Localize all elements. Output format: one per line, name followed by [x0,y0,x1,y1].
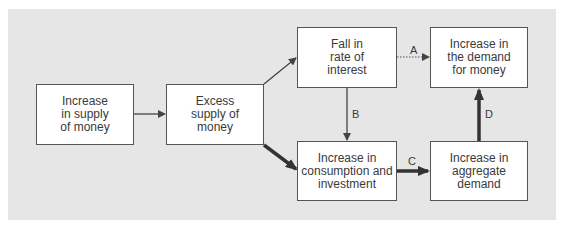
arrow-excess-to-consumption [264,145,296,169]
node-increase-consumption: Increase in consumption and investment [297,141,397,201]
edge-label-c: C [408,155,416,167]
node-increase-supply: Increase in supply of money [36,84,134,145]
arrow-excess-to-interest [264,58,296,84]
node-excess-supply: Excess supply of money [166,84,264,145]
node-increase-demand-money: Increase in the demand for money [430,27,528,88]
edge-label-d: D [485,108,493,120]
node-fall-interest: Fall in rate of interest [297,27,397,88]
edge-label-a: A [410,44,417,56]
edge-label-b: B [352,108,359,120]
node-increase-aggregate: Increase in aggregate demand [430,141,528,201]
